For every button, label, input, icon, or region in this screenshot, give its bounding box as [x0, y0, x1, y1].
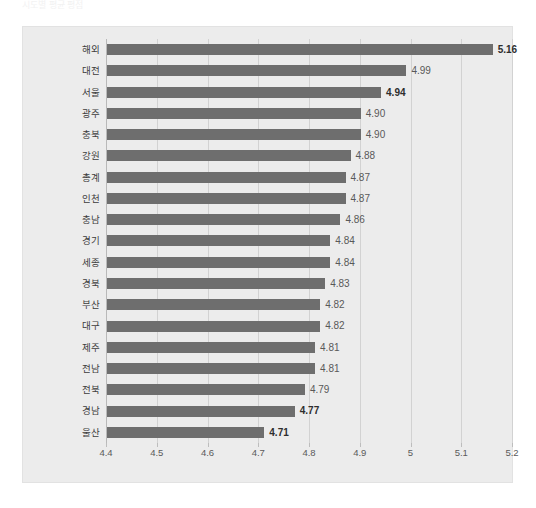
bar	[107, 235, 330, 246]
bar-value-label: 5.16	[493, 39, 517, 60]
bar-value-label: 4.94	[381, 82, 405, 103]
bar-row: 해외5.16	[106, 39, 513, 60]
x-tick-label: 4.9	[353, 447, 366, 458]
bar-value-label: 4.81	[315, 337, 339, 358]
bar-row: 대구4.82	[106, 315, 513, 336]
bar-value-label: 4.83	[325, 273, 349, 294]
x-tick-label: 5	[408, 447, 413, 458]
x-tick-label: 5.2	[505, 447, 518, 458]
chart-screenshot: 시도별 평균 평점 해외5.16대전4.99서울4.94광주4.90충북4.90…	[0, 0, 536, 508]
bar	[107, 65, 406, 76]
bar	[107, 257, 330, 268]
category-label: 부산	[82, 294, 100, 315]
category-label: 충남	[82, 209, 100, 230]
x-tick-label: 4.6	[201, 447, 214, 458]
bar-value-label: 4.99	[406, 60, 430, 81]
plot-area: 해외5.16대전4.99서울4.94광주4.90충북4.90강원4.88총계4.…	[106, 39, 513, 443]
x-tick-label: 5.1	[455, 447, 468, 458]
bar	[107, 342, 315, 353]
bar	[107, 406, 295, 417]
bar-row: 경기4.84	[106, 230, 513, 251]
bar-value-label: 4.82	[320, 315, 344, 336]
bar-value-label: 4.86	[340, 209, 364, 230]
bar	[107, 321, 320, 332]
bar	[107, 278, 325, 289]
bar-row: 광주4.90	[106, 103, 513, 124]
category-label: 인천	[82, 188, 100, 209]
bar-row: 세종4.84	[106, 252, 513, 273]
category-label: 경북	[82, 273, 100, 294]
bar	[107, 87, 381, 98]
bar-row: 울산4.71	[106, 422, 513, 443]
bar	[107, 363, 315, 374]
bar-value-label: 4.79	[305, 379, 329, 400]
bar	[107, 172, 346, 183]
bar	[107, 129, 361, 140]
bar-value-label: 4.90	[361, 103, 385, 124]
category-label: 전북	[82, 379, 100, 400]
chart-title-faint: 시도별 평균 평점	[22, 0, 182, 10]
category-label: 전남	[82, 358, 100, 379]
bar	[107, 44, 493, 55]
chart-panel: 해외5.16대전4.99서울4.94광주4.90충북4.90강원4.88총계4.…	[22, 26, 513, 483]
bar-row: 대전4.99	[106, 60, 513, 81]
x-tick-label: 4.7	[252, 447, 265, 458]
category-label: 울산	[82, 422, 100, 443]
bar-row: 서울4.94	[106, 82, 513, 103]
bar-row: 부산4.82	[106, 294, 513, 315]
category-label: 경남	[82, 400, 100, 421]
category-label: 총계	[82, 167, 100, 188]
bar-value-label: 4.90	[361, 124, 385, 145]
bar-value-label: 4.87	[346, 188, 370, 209]
bar-value-label: 4.84	[330, 230, 354, 251]
category-label: 경기	[82, 230, 100, 251]
category-label: 충북	[82, 124, 100, 145]
bar-row: 전남4.81	[106, 358, 513, 379]
bar	[107, 299, 320, 310]
bar	[107, 150, 351, 161]
bar-value-label: 4.71	[264, 422, 288, 443]
bar-value-label: 4.77	[295, 400, 319, 421]
bar	[107, 193, 346, 204]
x-tick-label: 4.4	[99, 447, 112, 458]
bar-value-label: 4.81	[315, 358, 339, 379]
bar-row: 총계4.87	[106, 167, 513, 188]
bar-row: 제주4.81	[106, 337, 513, 358]
bar-row: 인천4.87	[106, 188, 513, 209]
bar-row: 충북4.90	[106, 124, 513, 145]
bar	[107, 214, 340, 225]
x-tick-label: 4.8	[302, 447, 315, 458]
bar-row: 전북4.79	[106, 379, 513, 400]
category-label: 해외	[82, 39, 100, 60]
x-tick-label: 4.5	[150, 447, 163, 458]
bar-row: 경북4.83	[106, 273, 513, 294]
bar	[107, 384, 305, 395]
bar	[107, 108, 361, 119]
bar-row: 충남4.86	[106, 209, 513, 230]
bar-row: 강원4.88	[106, 145, 513, 166]
bar-row: 경남4.77	[106, 400, 513, 421]
category-label: 광주	[82, 103, 100, 124]
category-label: 서울	[82, 82, 100, 103]
category-label: 세종	[82, 252, 100, 273]
bar-value-label: 4.88	[351, 145, 375, 166]
category-label: 제주	[82, 337, 100, 358]
bar	[107, 427, 264, 438]
bar-value-label: 4.87	[346, 167, 370, 188]
bar-value-label: 4.84	[330, 252, 354, 273]
category-label: 대전	[82, 60, 100, 81]
category-label: 강원	[82, 145, 100, 166]
bar-value-label: 4.82	[320, 294, 344, 315]
category-label: 대구	[82, 315, 100, 336]
